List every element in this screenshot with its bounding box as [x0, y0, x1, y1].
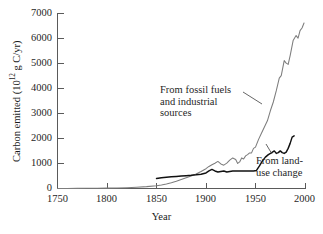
- x-tick-label-1750: 1750: [37, 194, 78, 205]
- annotation-fossil-line-3: sources: [160, 107, 231, 119]
- leader-line-fossil: [243, 92, 262, 104]
- annotation-fossil-line-1: From fossil fuels: [160, 84, 231, 96]
- annotation-landuse-line-1: From land-: [256, 155, 303, 167]
- annotation-land-use-change: From land- use change: [256, 155, 303, 178]
- annotation-fossil-fuels: From fossil fuels and industrial sources: [160, 84, 231, 119]
- x-tick-label-1900: 1900: [185, 194, 226, 205]
- x-tick-label-2000: 2000: [284, 194, 323, 205]
- annotation-fossil-line-2: and industrial: [160, 96, 231, 108]
- x-tick-label-1800: 1800: [86, 194, 127, 205]
- x-axis-title: Year: [0, 212, 323, 223]
- y-axis-title-exponent: 12: [9, 73, 17, 80]
- y-tick-marks: [58, 14, 64, 189]
- x-tick-label-1850: 1850: [136, 194, 177, 205]
- annotation-landuse-line-2: use change: [256, 167, 303, 179]
- x-tick-label-1950: 1950: [235, 194, 276, 205]
- y-axis-title-prefix: Carbon emitted (10: [11, 80, 22, 162]
- y-axis-title: Carbon emitted (1012 g C/yr): [12, 8, 23, 194]
- x-tick-marks: [58, 183, 306, 189]
- carbon-emissions-chart: 7000 6000 5000 4000 3000 2000 1000 0 175…: [0, 0, 323, 234]
- leader-line-landuse: [266, 144, 272, 154]
- y-axis-title-suffix: g C/yr): [11, 41, 22, 74]
